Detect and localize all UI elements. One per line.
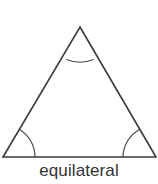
bottom-left-angle-arc [20, 130, 36, 158]
apex-angle-arc [67, 60, 94, 63]
bottom-right-angle-arc [123, 130, 140, 158]
triangle-diagram [0, 0, 158, 184]
equilateral-triangle-figure: equilateral [0, 0, 158, 184]
figure-caption: equilateral [0, 161, 158, 181]
triangle-outline [3, 27, 156, 157]
